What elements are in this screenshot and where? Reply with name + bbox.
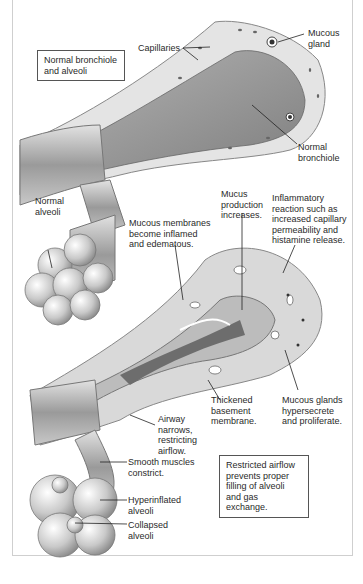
- label-hyperinflated-alveoli: Hyperinflatedalveoli: [128, 495, 181, 516]
- label-mucous-glands: Mucous glandshypersecreteand proliferate…: [282, 395, 343, 427]
- diseased-alveoli-drawing: [30, 475, 117, 557]
- label-inflammatory-reaction: Inflammatoryreaction such asincreased ca…: [272, 193, 347, 246]
- label-normal-alveoli: Normalalveoli: [35, 196, 64, 217]
- label-mucus-production: Mucusproductionincreases.: [221, 189, 263, 221]
- restricted-airflow-box: Restricted airflow prevents proper filli…: [219, 455, 309, 518]
- label-capillaries: Capillaries: [138, 43, 180, 54]
- normal-title-box: Normal bronchiole and alveoli: [37, 50, 125, 81]
- label-smooth-muscles: Smooth musclesconstrict.: [128, 457, 195, 478]
- label-collapsed-alveoli: Collapsedalveoli: [128, 520, 168, 541]
- label-normal-bronchiole: Normalbronchiole: [298, 142, 340, 163]
- restricted-airflow-text: Restricted airflow prevents proper filli…: [226, 460, 295, 512]
- label-mucous-gland: Mucousgland: [308, 28, 340, 49]
- label-thickened-membrane: Thickenedbasementmembrane.: [211, 395, 257, 427]
- normal-title-text: Normal bronchiole and alveoli: [44, 55, 117, 76]
- label-mucous-membranes: Mucous membranesbecome inflamedand edema…: [129, 218, 211, 250]
- label-airway-narrows: Airwaynarrows,restrictingairflow.: [158, 414, 197, 456]
